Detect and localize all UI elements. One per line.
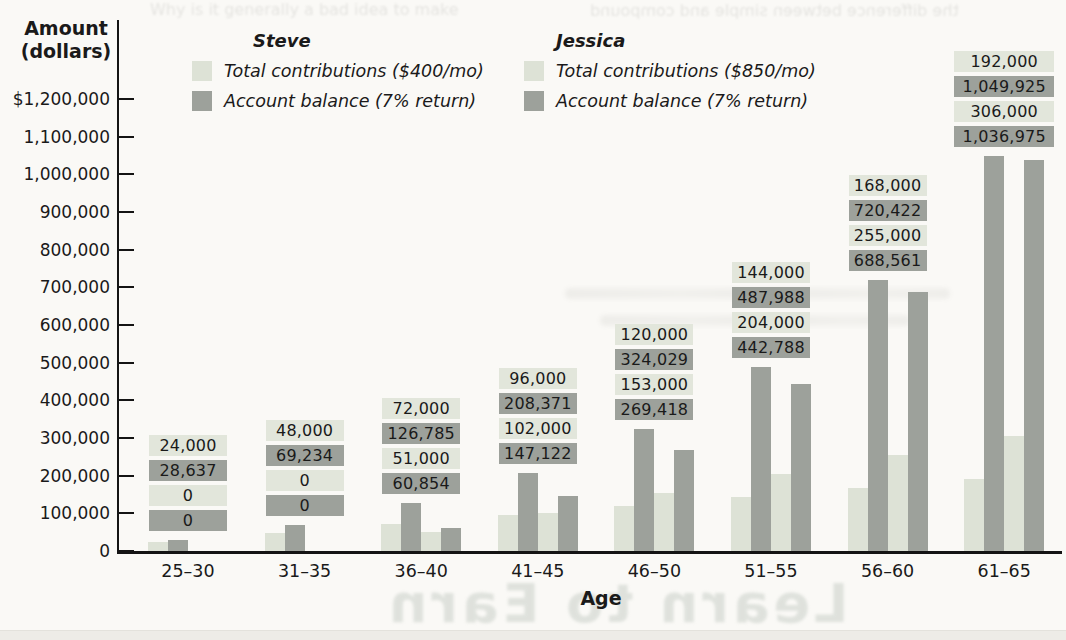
bar-value-label: 48,000 xyxy=(266,420,344,441)
bar-value-label: 720,422 xyxy=(849,200,927,221)
bar-value-label: 51,000 xyxy=(382,448,460,469)
y-tick-label: 1,000,000 xyxy=(0,163,110,185)
legend-jessica-contributions-label: Total contributions ($850/mo) xyxy=(556,61,816,81)
bar-value-label: 204,000 xyxy=(732,312,810,333)
y-axis-tick xyxy=(118,211,134,213)
bar-value-label: 153,000 xyxy=(615,374,693,395)
bar-steve-balance xyxy=(168,540,188,551)
bar-value-label: 28,637 xyxy=(149,460,227,481)
bar-value-label: 60,854 xyxy=(382,473,460,494)
y-axis-tick xyxy=(118,550,134,552)
legend-steve-balance-swatch-icon xyxy=(192,91,212,111)
bar-value-label: 0 xyxy=(266,470,344,491)
bar-value-label: 96,000 xyxy=(499,368,577,389)
x-axis-category-label: 51–55 xyxy=(726,561,816,581)
bar-jessica-contributions xyxy=(1004,436,1024,551)
bar-steve-contributions xyxy=(381,524,401,551)
page-edge-strip xyxy=(0,630,1066,640)
bar-value-label: 442,788 xyxy=(732,337,810,358)
x-axis-category-label: 56–60 xyxy=(843,561,933,581)
bar-steve-balance xyxy=(518,473,538,551)
y-axis-title-line1: Amount xyxy=(14,17,118,40)
y-axis-tick xyxy=(118,399,134,401)
bar-value-label: 688,561 xyxy=(849,250,927,271)
y-tick-label: 500,000 xyxy=(0,352,110,374)
bar-value-label: 69,234 xyxy=(266,445,344,466)
y-axis-tick xyxy=(118,475,134,477)
legend-steve-name: Steve xyxy=(253,30,311,51)
y-tick-label: 400,000 xyxy=(0,389,110,411)
bar-steve-contributions xyxy=(614,506,634,551)
y-axis-tick xyxy=(118,98,134,100)
y-tick-label: 600,000 xyxy=(0,314,110,336)
y-axis-tick xyxy=(118,437,134,439)
y-tick-label: 700,000 xyxy=(0,276,110,298)
bar-value-label: 102,000 xyxy=(499,418,577,439)
x-axis-title: Age xyxy=(556,587,646,610)
bar-steve-contributions xyxy=(148,542,168,551)
legend-steve-balance-label: Account balance (7% return) xyxy=(224,91,476,111)
bar-steve-balance xyxy=(285,525,305,551)
y-tick-label: $1,200,000 xyxy=(0,88,110,110)
bar-value-label: 255,000 xyxy=(849,225,927,246)
bar-jessica-contributions xyxy=(888,455,908,551)
bar-value-label: 168,000 xyxy=(849,175,927,196)
bar-jessica-contributions xyxy=(421,532,441,551)
bar-value-label: 24,000 xyxy=(149,435,227,456)
bar-value-label: 192,000 xyxy=(954,51,1054,72)
y-axis-tick xyxy=(118,249,134,251)
bar-steve-contributions xyxy=(498,515,518,551)
x-axis-line xyxy=(117,551,1062,554)
bar-jessica-balance xyxy=(1024,160,1044,551)
y-tick-label: 800,000 xyxy=(0,239,110,261)
y-axis-title-line2: (dollars) xyxy=(14,40,118,63)
bar-value-label: 1,049,925 xyxy=(954,76,1054,97)
y-axis-title: Amount (dollars) xyxy=(14,17,118,63)
y-tick-label: 200,000 xyxy=(0,465,110,487)
bar-jessica-balance xyxy=(908,292,928,551)
y-axis-tick xyxy=(118,362,134,364)
y-axis-tick xyxy=(118,324,134,326)
y-tick-label: 0 xyxy=(0,540,110,562)
bar-value-label: 0 xyxy=(266,495,344,516)
bar-steve-balance xyxy=(401,503,421,551)
bar-value-label: 269,418 xyxy=(615,399,693,420)
bar-value-label: 208,371 xyxy=(499,393,577,414)
y-axis-tick xyxy=(118,173,134,175)
bar-steve-contributions xyxy=(731,497,751,551)
bar-jessica-balance xyxy=(674,450,694,551)
bar-jessica-balance xyxy=(441,528,461,551)
bar-steve-contributions xyxy=(265,533,285,551)
legend-jessica-balance-label: Account balance (7% return) xyxy=(556,91,808,111)
bar-value-label: 0 xyxy=(149,485,227,506)
bar-steve-balance xyxy=(868,280,888,551)
bleed-text-top-right: the difference between simple and compou… xyxy=(590,1,959,20)
x-axis-category-label: 31–35 xyxy=(260,561,350,581)
bar-jessica-balance xyxy=(791,384,811,551)
bar-value-label: 487,988 xyxy=(732,287,810,308)
bar-value-label: 144,000 xyxy=(732,262,810,283)
y-tick-label: 900,000 xyxy=(0,201,110,223)
legend-jessica-name: Jessica xyxy=(556,30,625,51)
bar-steve-balance xyxy=(634,429,654,551)
bar-value-label: 120,000 xyxy=(615,324,693,345)
y-axis-tick xyxy=(118,136,134,138)
legend-steve-contributions-swatch-icon xyxy=(192,61,212,81)
x-axis-category-label: 25–30 xyxy=(143,561,233,581)
bar-jessica-contributions xyxy=(771,474,791,551)
y-tick-label: 300,000 xyxy=(0,427,110,449)
bar-value-label: 147,122 xyxy=(499,443,577,464)
bar-jessica-contributions xyxy=(538,513,558,551)
bar-value-label: 1,036,975 xyxy=(954,126,1054,147)
x-axis-category-label: 36–40 xyxy=(376,561,466,581)
bar-steve-contributions xyxy=(964,479,984,551)
legend-jessica-contributions-swatch-icon xyxy=(524,61,544,81)
bar-jessica-contributions xyxy=(654,493,674,551)
bar-value-label: 126,785 xyxy=(382,423,460,444)
y-axis-tick xyxy=(118,512,134,514)
x-axis-category-label: 46–50 xyxy=(609,561,699,581)
bar-value-label: 324,029 xyxy=(615,349,693,370)
bar-value-label: 72,000 xyxy=(382,398,460,419)
bleed-text-top-left: Why is it generally a bad idea to make xyxy=(150,0,459,19)
